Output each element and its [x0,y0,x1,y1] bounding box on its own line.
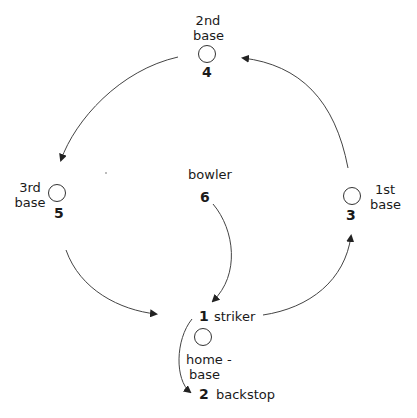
bowler-number: 6 [200,189,210,205]
backstop-label: backstop [216,387,275,402]
striker-label: striker [214,309,255,324]
second-base-label: 2nd base [193,13,223,43]
second-base-label-line2: base [193,28,223,43]
third-base-label: 3rd base [14,180,46,210]
second-base-marker [198,45,216,63]
stray-dot [105,172,107,174]
second-base-number: 4 [202,64,212,80]
first-base-number: 3 [346,207,356,223]
home-base-label-line2: base [186,367,232,382]
home-base-marker [194,328,212,346]
third-base-number: 5 [54,205,64,221]
third-base-label-line2: base [14,195,46,210]
arrow-3rd-to-home [66,250,156,314]
striker-number: 1 [199,308,209,324]
arrow-bowler-to-striker [213,204,231,301]
first-base-label-line1: 1st [370,182,400,197]
arrow-2nd-to-3rd [61,57,178,160]
first-base-marker [343,187,361,205]
bowler-label: bowler [180,167,240,182]
arrow-home-to-1st [263,236,351,315]
third-base-marker [48,184,66,202]
backstop-number: 2 [199,386,209,402]
home-base-label: home - base [186,352,232,382]
first-base-label-line2: base [370,197,400,212]
second-base-label-line1: 2nd [193,13,223,28]
first-base-label: 1st base [370,182,400,212]
home-base-label-line1: home - [186,352,232,367]
third-base-label-line1: 3rd [14,180,46,195]
arrow-1st-to-2nd [243,58,348,168]
